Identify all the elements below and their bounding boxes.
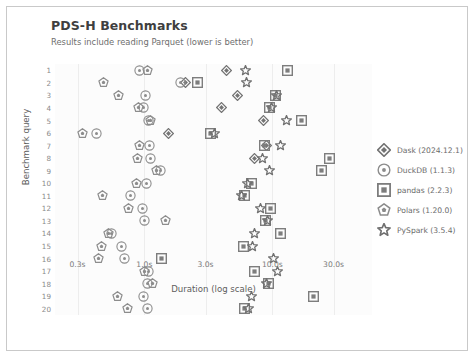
data-point-star <box>281 115 292 126</box>
data-point-circle <box>125 190 136 201</box>
data-point-pentagon <box>133 102 144 113</box>
data-point-circle <box>137 203 148 214</box>
data-point-circle <box>140 90 151 101</box>
data-point-circle <box>141 178 152 189</box>
data-point-pentagon <box>113 90 124 101</box>
y-tick-label: 19 <box>42 292 51 301</box>
data-point-pentagon <box>93 253 104 264</box>
data-point-pentagon <box>98 77 109 88</box>
data-point-pentagon <box>142 65 153 76</box>
data-point-star <box>271 90 282 101</box>
data-point-pentagon <box>97 190 108 201</box>
data-point-star <box>247 241 258 252</box>
legend-item-label: Dask (2024.12.1) <box>397 146 463 155</box>
data-point-square <box>259 140 270 151</box>
data-point-circle <box>116 241 127 252</box>
data-point-pentagon <box>122 303 133 314</box>
x-gridline <box>206 64 207 315</box>
y-tick-label: 20 <box>42 304 51 313</box>
data-point-circle <box>139 215 150 226</box>
x-tick-label: 1.0s <box>136 260 152 269</box>
data-point-diamond <box>258 115 269 126</box>
chart-legend: Dask (2024.12.1)DuckDB (1.1.3)pandas (2.… <box>377 140 469 240</box>
data-point-circle <box>144 140 155 151</box>
data-point-star <box>242 178 253 189</box>
y-tick-label: 11 <box>42 191 51 200</box>
data-point-star <box>262 215 273 226</box>
data-point-pentagon <box>103 228 114 239</box>
data-point-square <box>296 115 307 126</box>
data-point-star <box>264 165 275 176</box>
y-tick-label: 9 <box>46 166 51 175</box>
y-tick-label: 6 <box>46 129 51 138</box>
x-axis-label: Duration (log scale) <box>55 284 372 294</box>
y-tick-label: 15 <box>42 242 51 251</box>
data-point-circle <box>142 303 153 314</box>
data-point-star <box>275 140 286 151</box>
legend-item-label: PySpark (3.5.4) <box>397 226 456 235</box>
legend-item-label: pandas (2.2.3) <box>397 186 452 195</box>
data-point-pentagon <box>151 165 162 176</box>
y-tick-label: 18 <box>42 279 51 288</box>
data-point-square <box>316 165 327 176</box>
data-point-pentagon <box>160 215 171 226</box>
x-tick-label: 3.0s <box>197 260 213 269</box>
y-tick-label: 17 <box>42 267 51 276</box>
y-axis-label: Benchmark query <box>21 77 31 217</box>
data-point-circle <box>145 153 156 164</box>
data-point-pentagon <box>77 128 88 139</box>
x-gridline <box>334 64 335 315</box>
data-point-pentagon <box>145 115 156 126</box>
legend-item[interactable]: Polars (1.20.0) <box>377 200 469 220</box>
x-tick-label: 30.0s <box>323 260 344 269</box>
y-tick-label: 8 <box>46 154 51 163</box>
x-tick-label: 10.0s <box>262 260 283 269</box>
y-tick-label: 14 <box>42 229 51 238</box>
legend-item-label: Polars (1.20.0) <box>397 206 452 215</box>
data-point-star <box>209 128 220 139</box>
data-point-star <box>240 65 251 76</box>
data-point-star <box>266 102 277 113</box>
legend-item-label: DuckDB (1.1.3) <box>397 166 455 175</box>
y-tick-label: 3 <box>46 91 51 100</box>
pentagon-marker-icon <box>377 203 391 217</box>
star-marker-icon <box>377 223 391 237</box>
legend-item[interactable]: Dask (2024.12.1) <box>377 140 469 160</box>
data-point-diamond <box>216 102 227 113</box>
data-point-circle <box>175 77 186 88</box>
y-tick-label: 10 <box>42 179 51 188</box>
data-point-circle <box>91 128 102 139</box>
data-point-square <box>275 228 286 239</box>
x-tick-label: 0.3s <box>69 260 85 269</box>
legend-item[interactable]: pandas (2.2.3) <box>377 180 469 200</box>
y-tick-label: 13 <box>42 216 51 225</box>
data-point-pentagon <box>134 140 145 151</box>
data-point-star <box>236 190 247 201</box>
data-point-circle <box>119 253 130 264</box>
data-point-pentagon <box>96 241 107 252</box>
data-point-pentagon <box>123 203 134 214</box>
y-tick-label: 7 <box>46 141 51 150</box>
legend-item[interactable]: PySpark (3.5.4) <box>377 220 469 240</box>
data-point-star <box>255 203 266 214</box>
data-point-square <box>192 77 203 88</box>
data-point-star <box>249 228 260 239</box>
data-point-diamond <box>163 128 174 139</box>
data-point-square <box>324 153 335 164</box>
y-tick-label: 1 <box>46 66 51 75</box>
diamond-marker-icon <box>377 143 391 157</box>
x-gridline <box>78 64 79 315</box>
legend-item[interactable]: DuckDB (1.1.3) <box>377 160 469 180</box>
data-point-diamond <box>221 65 232 76</box>
data-point-star <box>257 153 268 164</box>
page-title: PDS-H Benchmarks <box>51 18 188 33</box>
y-tick-label: 4 <box>46 103 51 112</box>
data-point-star <box>241 77 252 88</box>
data-point-square <box>156 253 167 264</box>
page-subtitle: Results include reading Parquet (lower i… <box>51 37 253 47</box>
y-tick-label: 12 <box>42 204 51 213</box>
square-marker-icon <box>377 183 391 197</box>
data-point-pentagon <box>131 178 142 189</box>
circle-marker-icon <box>377 163 391 177</box>
data-point-diamond <box>232 90 243 101</box>
